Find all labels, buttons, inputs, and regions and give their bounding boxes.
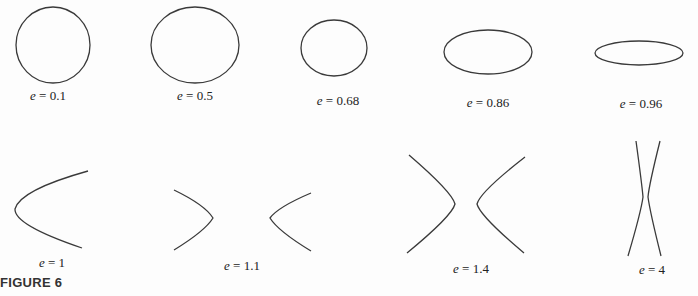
label-value: 0.86 — [486, 95, 509, 110]
label-e-4: e = 4 — [639, 262, 665, 278]
label-equals: = — [645, 262, 659, 277]
label-equals: = — [36, 88, 50, 103]
label-value: 1.1 — [244, 258, 260, 273]
conic-e-0-5 — [151, 7, 239, 83]
label-equals: = — [626, 96, 640, 111]
label-e-0-1: e = 0.1 — [30, 88, 66, 104]
label-value: 0.68 — [336, 93, 359, 108]
conic-e-4 — [628, 141, 661, 256]
label-equals: = — [45, 255, 59, 270]
label-e-0-68: e = 0.68 — [317, 93, 359, 109]
conic-e-0-1 — [16, 7, 90, 83]
label-e-1: e = 1 — [39, 255, 65, 271]
conic-e-1-1 — [174, 190, 311, 251]
label-e-0-96: e = 0.96 — [620, 96, 662, 112]
label-equals: = — [230, 258, 244, 273]
label-value: 0.96 — [639, 96, 662, 111]
label-e-1-1: e = 1.1 — [224, 258, 260, 274]
conic-e-1 — [15, 171, 88, 248]
figure-6-conic-sections: e = 0.1 e = 0.5 e = 0.68 e = 0.86 e = 0.… — [0, 0, 698, 296]
conic-e-0-68 — [301, 20, 367, 76]
conic-e-0-96 — [595, 41, 683, 65]
label-equals: = — [473, 95, 487, 110]
label-equals: = — [459, 261, 473, 276]
label-value: 1 — [59, 255, 66, 270]
conic-e-0-86 — [444, 30, 532, 74]
label-e-0-5: e = 0.5 — [177, 88, 213, 104]
label-equals: = — [323, 93, 337, 108]
label-e-1-4: e = 1.4 — [453, 261, 489, 277]
figure-caption: FIGURE 6 — [0, 275, 62, 290]
label-value: 0.5 — [197, 88, 213, 103]
label-value: 4 — [659, 262, 666, 277]
conic-e-1-4 — [407, 155, 525, 253]
conics-canvas — [0, 0, 698, 296]
label-equals: = — [183, 88, 197, 103]
label-value: 1.4 — [473, 261, 489, 276]
label-e-0-86: e = 0.86 — [467, 95, 509, 111]
label-value: 0.1 — [50, 88, 66, 103]
